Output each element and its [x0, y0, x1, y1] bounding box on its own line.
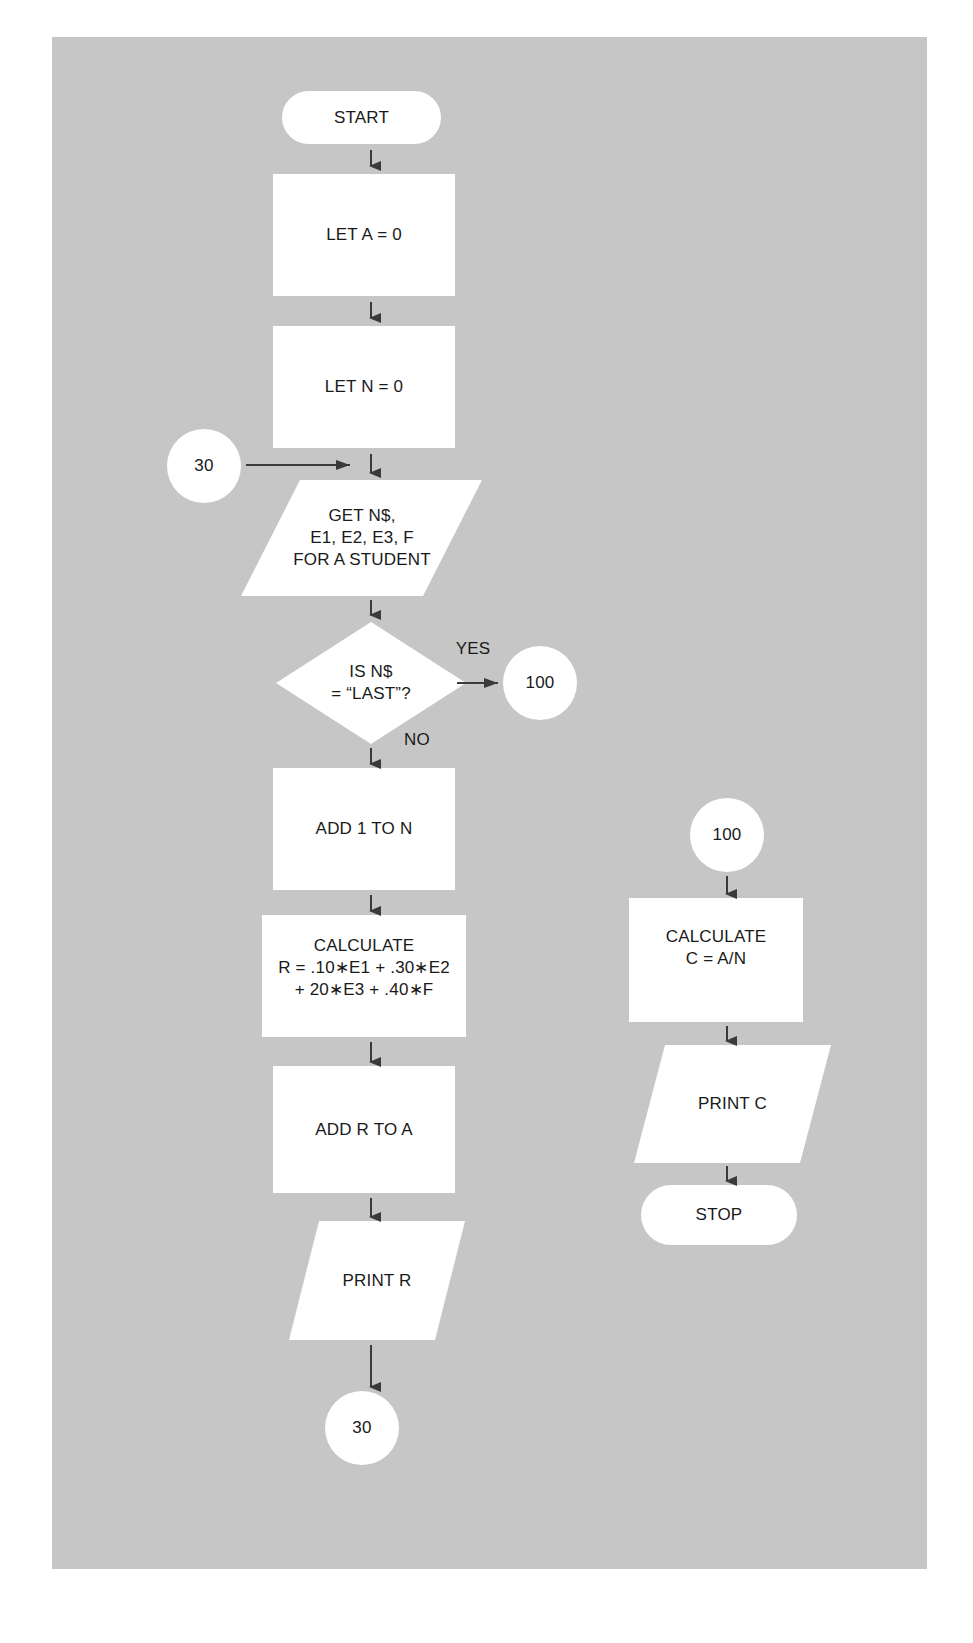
start-label: START	[282, 91, 441, 144]
decision-yes-label: YES	[448, 638, 498, 660]
connector-30-loop-label: 30	[325, 1391, 399, 1465]
decision-label: IS N$ = “LAST”?	[286, 645, 456, 721]
calculate-c-label: CALCULATE C = A/N	[629, 898, 803, 998]
connector-30-in-label: 30	[167, 429, 241, 503]
print-r-label: PRINT R	[289, 1221, 465, 1340]
add-r-to-a-label: ADD R TO A	[273, 1066, 455, 1193]
get-input-label: GET N$, E1, E2, E3, F FOR A STUDENT	[250, 480, 474, 596]
connector-100-in-label: 100	[690, 798, 764, 872]
connector-100-out-label: 100	[503, 646, 577, 720]
flowchart-shapes	[0, 0, 973, 1643]
calculate-r-label: CALCULATE R = .10∗E1 + .30∗E2 + 20∗E3 + …	[262, 915, 466, 1021]
decision-no-label: NO	[392, 729, 442, 751]
let-n-label: LET N = 0	[273, 326, 455, 448]
let-a-label: LET A = 0	[273, 174, 455, 296]
add-1-to-n-label: ADD 1 TO N	[273, 768, 455, 890]
print-c-label: PRINT C	[634, 1045, 831, 1163]
stop-label: STOP	[641, 1185, 797, 1245]
